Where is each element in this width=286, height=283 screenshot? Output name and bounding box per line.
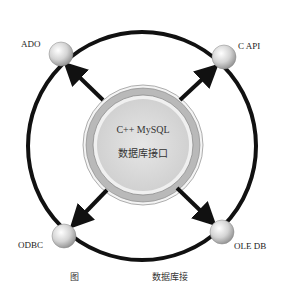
- node-label-ado: ADO: [21, 39, 41, 49]
- arrow-to-ado: [72, 70, 103, 100]
- center-subtitle: 数据库接口: [93, 145, 193, 160]
- arrow-to-odbc: [78, 190, 107, 220]
- center-title: C++ MySQL: [93, 124, 193, 135]
- figure-caption-suffix: 数据库接: [152, 270, 188, 283]
- node-label-capi: C API: [238, 41, 260, 51]
- node-odbc-sphere: [52, 224, 76, 248]
- figure-caption-prefix: 图: [70, 270, 79, 283]
- arrow-to-capi: [180, 72, 210, 100]
- node-oledb-sphere: [210, 220, 234, 244]
- node-capi-sphere: [212, 45, 236, 69]
- arrow-to-oledb: [177, 188, 208, 218]
- node-label-odbc: ODBC: [18, 240, 43, 250]
- node-ado-sphere: [49, 42, 73, 66]
- node-label-oledb: OLE DB: [234, 241, 266, 251]
